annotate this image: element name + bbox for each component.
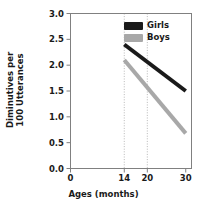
x-tick-label-0: 0 [56,173,86,183]
legend-item-boys: Boys [124,32,170,43]
legend-swatch-girls [124,22,143,30]
x-tick-label-20: 20 [132,173,162,183]
y-axis-ticks [67,14,71,169]
x-axis-tick-labels: 0142030 [0,173,207,185]
x-axis-label: Ages (months) [0,189,207,199]
x-tick-label-30: 30 [171,173,201,183]
series-line-boys [124,60,185,133]
series-line-girls [124,45,185,92]
x-axis-ticks [71,169,186,173]
legend-label-boys: Boys [147,33,170,42]
chart-legend: GirlsBoys [124,20,170,44]
legend-swatch-boys [124,34,143,42]
legend-label-girls: Girls [147,21,169,30]
data-series [124,45,185,134]
legend-item-girls: Girls [124,20,170,31]
chart-figure: Diminutives per 100 Utterances 0.00.51.0… [0,0,207,211]
